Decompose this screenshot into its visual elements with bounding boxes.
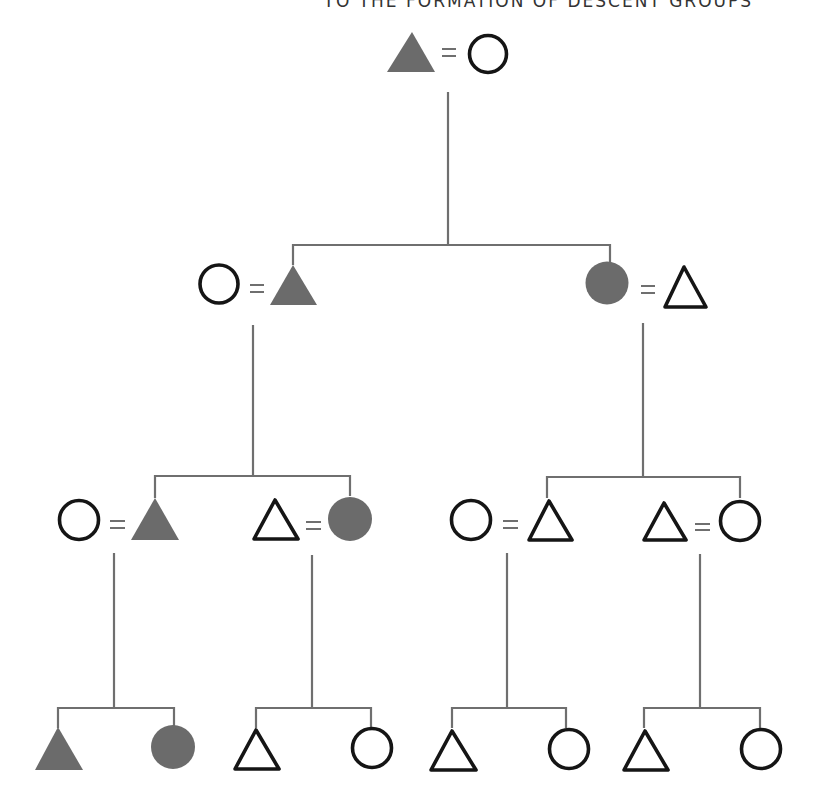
couple-g3-4	[644, 502, 760, 541]
siblings-g4-4	[624, 730, 781, 771]
sibling-bar-g4-2	[256, 708, 371, 728]
couple-g3-1	[60, 498, 180, 540]
couple-g2-left	[200, 265, 317, 305]
male-outline-icon	[254, 500, 298, 539]
female-filled-icon	[151, 725, 195, 769]
couple-g2-right	[586, 262, 707, 308]
female-outline-icon	[452, 501, 491, 540]
sibling-bar-g2	[293, 245, 610, 265]
female-outline-icon	[353, 729, 392, 768]
couple-g1	[387, 32, 507, 73]
siblings-g4-1	[35, 725, 195, 770]
male-outline-icon	[644, 503, 686, 540]
sibling-bar-g3-right	[547, 477, 740, 498]
couple-g3-3	[452, 501, 573, 541]
male-filled-icon	[35, 727, 83, 770]
sibling-bar-g3-left	[155, 476, 350, 498]
male-outline-icon	[235, 730, 279, 769]
female-outline-icon	[742, 730, 781, 769]
sibling-bar-g4-1	[58, 708, 174, 728]
male-filled-icon	[387, 32, 435, 72]
female-outline-icon	[470, 36, 507, 73]
couple-g3-2	[254, 497, 372, 541]
male-filled-icon	[270, 265, 317, 305]
female-filled-icon	[328, 497, 372, 541]
sibling-bar-g4-3	[452, 708, 566, 728]
male-outline-icon	[529, 501, 572, 540]
descent-lines	[58, 92, 760, 728]
female-outline-icon	[200, 265, 238, 303]
male-filled-icon	[131, 498, 179, 540]
male-outline-icon	[624, 731, 668, 770]
female-outline-icon	[550, 730, 589, 769]
male-outline-icon	[665, 267, 706, 307]
female-filled-icon	[586, 262, 629, 305]
sibling-bar-g4-4	[644, 708, 760, 728]
male-outline-icon	[431, 731, 476, 770]
siblings-g4-2	[235, 729, 392, 770]
female-outline-icon	[721, 502, 760, 541]
female-outline-icon	[60, 501, 99, 540]
siblings-g4-3	[431, 730, 589, 771]
kinship-diagram	[0, 0, 813, 812]
